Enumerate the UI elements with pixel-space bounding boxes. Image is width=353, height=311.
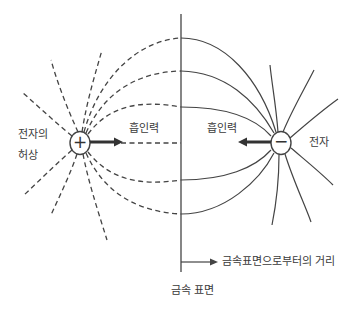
negative-symbol: − bbox=[274, 133, 288, 150]
metal-surface-label: 금속 표면 bbox=[171, 285, 215, 296]
distance-arrow-head bbox=[210, 259, 218, 266]
attraction-label-right: 흡인력 bbox=[207, 123, 237, 134]
attraction-arrowhead-right bbox=[238, 138, 247, 147]
attraction-label-left: 흡인력 bbox=[129, 123, 159, 134]
image-charge-label-line1: 전자의 bbox=[18, 129, 48, 140]
distance-axis-label: 금속표면으로부터의 거리 bbox=[222, 256, 336, 267]
image-charge-label-line2: 허상 bbox=[18, 150, 38, 161]
attraction-arrowhead-left bbox=[114, 138, 123, 147]
electron-label: 전자 bbox=[309, 137, 329, 148]
electron-field-lines bbox=[181, 38, 338, 225]
positive-symbol: + bbox=[73, 134, 87, 151]
